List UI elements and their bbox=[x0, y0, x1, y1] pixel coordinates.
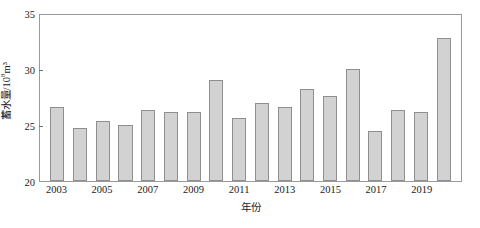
bar-slot bbox=[364, 15, 387, 181]
bar[interactable] bbox=[118, 125, 132, 181]
y-axis-tick-mark bbox=[39, 126, 43, 127]
bar[interactable] bbox=[187, 112, 201, 181]
bar-slot bbox=[296, 15, 319, 181]
y-axis-title-exponent: 8 bbox=[0, 73, 7, 77]
y-axis-title-unit: m³ bbox=[1, 62, 12, 73]
bar-slot bbox=[228, 15, 251, 181]
x-axis-tick-label: 2019 bbox=[411, 184, 432, 195]
bar-slot bbox=[410, 15, 433, 181]
bar[interactable] bbox=[368, 131, 382, 181]
bar[interactable] bbox=[346, 69, 360, 181]
y-axis-tick-mark bbox=[39, 70, 43, 71]
bar[interactable] bbox=[164, 112, 178, 181]
bar[interactable] bbox=[209, 80, 223, 181]
bar-slot bbox=[319, 15, 342, 181]
x-axis-tick-label: 2007 bbox=[137, 184, 158, 195]
bar[interactable] bbox=[50, 107, 64, 181]
bar-slot bbox=[273, 15, 296, 181]
x-axis-tick-label: 2015 bbox=[320, 184, 341, 195]
bar-slot bbox=[205, 15, 228, 181]
bar-slot bbox=[160, 15, 183, 181]
bars-container bbox=[40, 15, 461, 181]
x-axis-tick-label: 2011 bbox=[229, 184, 250, 195]
bar-slot bbox=[46, 15, 69, 181]
bar-slot bbox=[182, 15, 205, 181]
y-axis-tick-labels: 20253035 bbox=[14, 0, 38, 200]
bar[interactable] bbox=[73, 128, 87, 181]
bar[interactable] bbox=[255, 103, 269, 181]
x-axis-tick-label: 2017 bbox=[366, 184, 387, 195]
bar[interactable] bbox=[96, 121, 110, 181]
y-axis-title-main: 蓄水量/10 bbox=[1, 77, 12, 120]
bar[interactable] bbox=[300, 89, 314, 181]
bar-slot bbox=[341, 15, 364, 181]
bar-slot bbox=[250, 15, 273, 181]
plot-area bbox=[39, 14, 462, 182]
y-axis-tick-label: 25 bbox=[25, 121, 36, 132]
x-axis-tick-label: 2003 bbox=[46, 184, 67, 195]
bar-slot bbox=[69, 15, 92, 181]
bar-chart-figure: 蓄水量/108m³ 20253035 200320052007200920112… bbox=[0, 0, 480, 228]
bar-slot bbox=[137, 15, 160, 181]
bar[interactable] bbox=[278, 107, 292, 181]
x-axis-tick-label: 2005 bbox=[92, 184, 113, 195]
bar-slot bbox=[432, 15, 455, 181]
bar-slot bbox=[91, 15, 114, 181]
y-axis-tick-label: 35 bbox=[25, 9, 36, 20]
bar[interactable] bbox=[391, 110, 405, 181]
bar[interactable] bbox=[437, 38, 451, 181]
y-axis-title: 蓄水量/108m³ bbox=[0, 0, 14, 182]
x-axis-tick-label: 2009 bbox=[183, 184, 204, 195]
x-axis-tick-labels: 200320052007200920112013201520172019 bbox=[39, 184, 462, 200]
x-axis-title: 年份 bbox=[39, 199, 462, 214]
bar[interactable] bbox=[323, 96, 337, 181]
bar-slot bbox=[114, 15, 137, 181]
bar-slot bbox=[387, 15, 410, 181]
bar[interactable] bbox=[141, 110, 155, 181]
bar[interactable] bbox=[232, 118, 246, 181]
y-axis-tick-label: 20 bbox=[25, 177, 36, 188]
x-axis-tick-label: 2013 bbox=[274, 184, 295, 195]
bar[interactable] bbox=[414, 112, 428, 181]
y-axis-tick-label: 30 bbox=[25, 65, 36, 76]
